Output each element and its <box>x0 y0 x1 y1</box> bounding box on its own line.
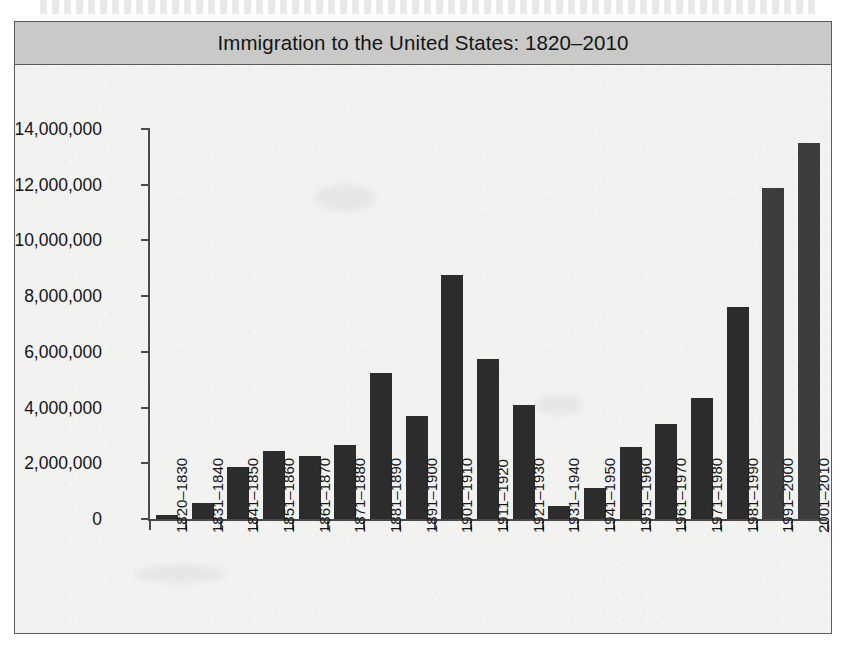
x-axis-label: 1891–1900 <box>423 458 440 533</box>
x-axis-label: 1841–1850 <box>244 458 261 533</box>
x-axis-label: 1871–1880 <box>351 458 368 533</box>
x-axis-label: 1911–1920 <box>494 459 511 533</box>
x-axis-label: 2001–2010 <box>815 458 832 533</box>
x-axis-label: 1991–2000 <box>779 458 796 533</box>
x-axis-label: 1951–1960 <box>637 458 654 533</box>
x-axis-label: 1931–1940 <box>565 458 582 533</box>
x-axis-label: 1851–1860 <box>280 458 297 533</box>
chart-title: Immigration to the United States: 1820–2… <box>217 31 628 55</box>
x-axis-label: 1831–1840 <box>209 458 226 533</box>
x-axis-label: 1881–1890 <box>387 458 404 533</box>
bars-layer <box>15 65 831 633</box>
scan-artifact-top-text <box>40 0 820 14</box>
chart-title-bar: Immigration to the United States: 1820–2… <box>15 22 831 65</box>
x-axis-label: 1861–1870 <box>316 458 333 533</box>
x-axis-label: 1820–1830 <box>173 458 190 533</box>
x-axis-label: 1921–1930 <box>530 458 547 533</box>
x-axis-label: 1961–1970 <box>672 458 689 533</box>
plot-area: 02,000,0004,000,0006,000,0008,000,00010,… <box>15 65 831 633</box>
x-axis-label: 1981–1990 <box>744 458 761 533</box>
chart-figure-frame: Immigration to the United States: 1820–2… <box>14 21 832 634</box>
x-axis-label: 1941–1950 <box>601 458 618 533</box>
x-axis-label: 1901–1910 <box>458 458 475 533</box>
x-axis-label: 1971–1980 <box>708 458 725 533</box>
